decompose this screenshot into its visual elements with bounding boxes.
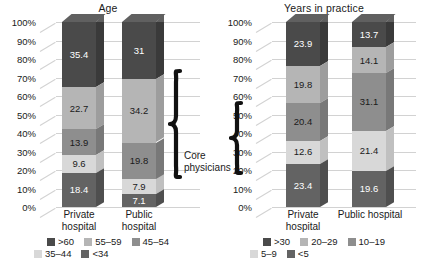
gridline-depth-connector [40, 41, 56, 51]
bar-segment-side-face [320, 17, 328, 66]
gridline [56, 207, 200, 208]
y-axis-tick: 20% [17, 165, 36, 176]
bar-segment[interactable]: 19.8 [286, 66, 320, 103]
chart-title-age: Age [0, 2, 216, 14]
legend-label: >60 [58, 237, 74, 246]
gridline-depth-connector [256, 41, 272, 51]
legend-item[interactable]: 35–44 [34, 249, 71, 258]
bar-segment-side-face [156, 75, 164, 143]
bar-segment[interactable]: 18.4 [62, 173, 96, 207]
legend-item[interactable]: <34 [81, 249, 108, 258]
x-axis-category-label: Public hospital [335, 209, 405, 221]
gridline-depth-connector [40, 171, 56, 181]
x-axis-category-label: Private hospital [48, 209, 110, 232]
legend-swatch-icon [84, 238, 92, 246]
chart-panel-years-in-practice: Years in practice 100%90%80%70%60%50%40%… [216, 0, 432, 275]
bar-segment[interactable]: 34.2 [122, 79, 156, 142]
bar-segment[interactable]: 19.8 [122, 143, 156, 180]
bar-segment-value-label: 35.4 [70, 50, 89, 60]
legend-item[interactable]: >60 [47, 237, 74, 246]
bar-segment[interactable]: 14.1 [352, 47, 386, 73]
bar-segment-value-label: 13.7 [360, 30, 379, 40]
bar-segment[interactable]: 13.9 [62, 129, 96, 155]
bar-segment-side-face [320, 159, 328, 207]
legend-item[interactable]: 55–59 [84, 237, 121, 246]
legend-item[interactable]: 10–19 [348, 237, 385, 246]
legend-item[interactable]: 45–54 [132, 237, 169, 246]
bar-segment-value-label: 19.6 [360, 184, 379, 194]
legend-swatch-icon [81, 250, 89, 258]
legend-label: >30 [274, 237, 290, 246]
y-axis-tick: 60% [17, 91, 36, 102]
y-axis-tick: 100% [228, 17, 252, 28]
y-axis-tick: 10% [233, 183, 252, 194]
gridline-depth-connector [256, 134, 272, 144]
bar-segment[interactable]: 22.7 [62, 87, 96, 129]
gridline-depth-connector [40, 23, 56, 33]
legend-label: 45–54 [143, 237, 169, 246]
legend-label: 35–44 [45, 249, 71, 258]
bar-segment-side-face [386, 126, 394, 170]
y-axis-tick: 10% [17, 183, 36, 194]
bar-segment[interactable]: 9.6 [62, 155, 96, 173]
bar-segment[interactable]: 35.4 [62, 22, 96, 87]
gridline-depth-connector [40, 152, 56, 162]
legend-age: >6055–5945–5435–44<34 [0, 237, 216, 261]
bar-segment[interactable]: 31.1 [352, 73, 386, 131]
bar-segment-value-label: 34.2 [130, 106, 149, 116]
stacked-bar[interactable]: 35.422.713.99.618.4 [62, 22, 96, 207]
bar-segment[interactable]: 23.9 [286, 22, 320, 66]
legend-label: <34 [92, 249, 108, 258]
y-axis-tick: 70% [233, 72, 252, 83]
plot-area-years-in-practice: 23.919.820.412.623.413.714.131.121.419.6 [256, 22, 416, 207]
y-axis-tick: 100% [12, 17, 36, 28]
legend-swatch-icon [263, 238, 271, 246]
bar-segment[interactable]: 13.7 [352, 22, 386, 47]
legend-label: 55–59 [95, 237, 121, 246]
bar-segment[interactable]: 12.6 [286, 141, 320, 164]
core-physicians-label: Core physicians [184, 150, 242, 173]
legend-years-in-practice: >3020–2910–195–9<5 [216, 237, 432, 261]
stacked-bar[interactable]: 23.919.820.412.623.4 [286, 22, 320, 207]
bar-segment-side-face [156, 138, 164, 179]
stacked-bar[interactable]: 3134.219.87.97.1 [122, 22, 156, 207]
legend-item[interactable]: 5–9 [250, 249, 277, 258]
legend-item[interactable]: 20–29 [300, 237, 337, 246]
bar-segment[interactable]: 7.9 [122, 179, 156, 194]
y-axis-tick: 0% [238, 202, 252, 213]
gridline-depth-connector [256, 23, 272, 33]
bar-segment[interactable]: 19.6 [352, 171, 386, 207]
gridline-depth-connector [256, 189, 272, 199]
bar-segment-value-label: 19.8 [294, 80, 313, 90]
bar-segment-side-face [320, 61, 328, 102]
bar-segment-value-label: 12.6 [294, 147, 313, 157]
bar-segment-value-label: 14.1 [360, 56, 379, 66]
bar-segment-value-label: 31 [134, 46, 145, 56]
legend-label: 5–9 [261, 249, 277, 258]
gridline-depth-connector [256, 152, 272, 162]
legend-swatch-icon [34, 250, 42, 258]
bar-segment-value-label: 19.8 [130, 156, 149, 166]
legend-item[interactable]: >30 [263, 237, 290, 246]
y-axis-tick: 0% [22, 202, 36, 213]
bar-segment[interactable]: 23.4 [286, 164, 320, 207]
bar-segment[interactable]: 7.1 [122, 194, 156, 207]
y-axis-tick: 40% [17, 128, 36, 139]
gridline-depth-connector [40, 189, 56, 199]
bar-segment[interactable]: 20.4 [286, 103, 320, 141]
bar-segment-value-label: 18.4 [70, 185, 89, 195]
bar-segment[interactable]: 31 [122, 22, 156, 79]
legend-label: 20–29 [311, 237, 337, 246]
gridline [272, 207, 416, 208]
legend-label: <5 [298, 249, 309, 258]
bar-segment-value-label: 13.9 [70, 138, 89, 148]
bar-segment-side-face [96, 168, 104, 207]
bar-segment-value-label: 9.6 [72, 159, 85, 169]
legend-item[interactable]: <5 [287, 249, 309, 258]
gridline-depth-connector [256, 115, 272, 125]
gridline-depth-connector [40, 134, 56, 144]
gridline-depth-connector [40, 78, 56, 88]
y-axis-tick: 90% [17, 35, 36, 46]
stacked-bar[interactable]: 13.714.131.121.419.6 [352, 22, 386, 207]
bar-segment[interactable]: 21.4 [352, 131, 386, 171]
